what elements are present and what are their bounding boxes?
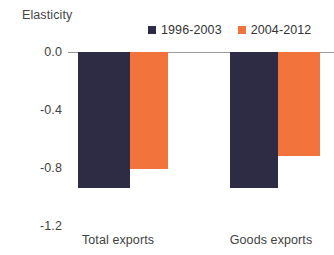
legend-swatch-icon-series-b	[238, 26, 246, 34]
bar-total-exports-2004-2012[interactable]	[130, 52, 168, 169]
plot-area	[68, 52, 334, 226]
y-tick-label-1: -0.4	[16, 104, 62, 117]
legend-entry-2004-2012[interactable]: 2004-2012	[238, 24, 312, 37]
bar-goods-exports-2004-2012[interactable]	[278, 52, 320, 156]
y-tick-label-3: -1.2	[16, 220, 62, 233]
legend-swatch-icon-series-a	[148, 26, 156, 34]
elasticity-bar-chart: Elasticity 1996-2003 2004-2012 0.0 -0.4 …	[0, 0, 334, 255]
y-tick-label-2: -0.8	[16, 162, 62, 175]
legend-label-series-a: 1996-2003	[161, 24, 222, 37]
y-tick-label-0: 0.0	[16, 46, 62, 59]
legend-label-series-b: 2004-2012	[251, 24, 312, 37]
chart-legend: 1996-2003 2004-2012	[148, 24, 311, 37]
bar-goods-exports-1996-2003[interactable]	[230, 52, 278, 188]
y-axis-tick-labels: 0.0 -0.4 -0.8 -1.2	[0, 0, 62, 255]
category-label-goods-exports: Goods exports	[208, 234, 334, 247]
bar-total-exports-1996-2003[interactable]	[78, 52, 130, 188]
legend-entry-1996-2003[interactable]: 1996-2003	[148, 24, 222, 37]
category-label-total-exports: Total exports	[58, 234, 178, 247]
